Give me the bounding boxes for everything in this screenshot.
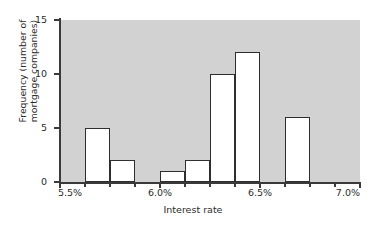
- x-axis-tick: [109, 182, 110, 187]
- y-axis-tick: [54, 19, 60, 20]
- x-axis-tick-label: 6.0%: [148, 188, 172, 198]
- x-axis-title: Interest rate: [0, 204, 386, 215]
- histogram-bar: [110, 160, 135, 182]
- histogram-figure: 051015 5.5%6.0%6.5%7.0% Interest rate Fr…: [0, 0, 386, 225]
- y-axis-title-line-1: Frequency (number of: [17, 0, 28, 151]
- histogram-bar: [235, 52, 260, 182]
- x-axis-tick: [309, 182, 310, 187]
- x-axis-tick: [84, 182, 85, 187]
- x-axis-tick: [184, 182, 185, 187]
- y-axis-title-line-2: mortgage companies): [28, 0, 39, 151]
- histogram-bar: [185, 160, 210, 182]
- y-axis-tick-label: 0: [7, 177, 47, 187]
- histogram-bar: [85, 128, 110, 182]
- y-axis-tick: [54, 127, 60, 128]
- histogram-bar: [285, 117, 310, 182]
- x-axis-tick: [134, 182, 135, 187]
- histogram-bar: [160, 171, 185, 182]
- x-axis-tick: [234, 182, 235, 187]
- histogram-bar: [210, 74, 235, 182]
- x-axis-tick: [284, 182, 285, 187]
- y-axis-tick: [54, 73, 60, 74]
- x-axis-tick-label: 6.5%: [248, 188, 272, 198]
- x-axis-tick-label: 5.5%: [58, 188, 82, 198]
- y-axis-line: [59, 18, 61, 184]
- x-axis-tick: [209, 182, 210, 187]
- y-axis-title: Frequency (number of mortgage companies): [17, 0, 39, 151]
- x-axis-tick-label: 7.0%: [336, 188, 360, 198]
